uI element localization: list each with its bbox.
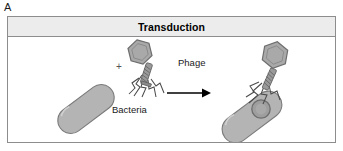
diagram-canvas: +	[8, 37, 335, 142]
infected-bacteria-body	[217, 86, 288, 142]
infected-bacteria-cell	[217, 86, 288, 142]
diagram-svg: +	[8, 37, 335, 142]
phage-head	[126, 37, 153, 66]
infected-bacteria-group	[217, 40, 289, 142]
process-arrow	[167, 89, 211, 98]
attached-phage-head	[261, 40, 289, 71]
bacteria-cell	[53, 79, 120, 138]
phage-tail	[140, 63, 153, 87]
bacteria-label: Bacteria	[112, 104, 148, 115]
panel-letter-label: A	[4, 1, 12, 13]
plus-sign: +	[116, 61, 122, 72]
bacteriophage	[126, 37, 164, 97]
transduction-figure: A Transduction +	[0, 0, 343, 151]
figure-title: Transduction	[138, 21, 205, 33]
transduced-dna-core	[256, 104, 267, 115]
phage-label: Phage	[178, 57, 205, 68]
phage-head-hexagon	[126, 37, 153, 66]
figure-title-bar: Transduction	[8, 17, 335, 37]
attached-phage-tail	[262, 68, 277, 91]
figure-outer-box: Transduction +	[7, 16, 336, 143]
bacteria-body	[53, 79, 120, 138]
arrow-head	[202, 89, 211, 98]
attached-phage-head-hexagon	[261, 40, 289, 71]
